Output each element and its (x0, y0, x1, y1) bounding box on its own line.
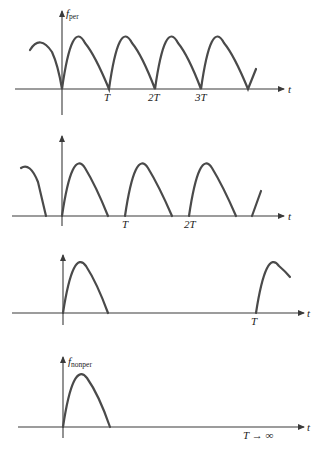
plot-periodic-full-wave: fper t T 2T 3T (15, 7, 292, 115)
x-axis-label: t (288, 210, 292, 222)
y-axis-label: fper (66, 7, 79, 21)
tick-T: T (251, 315, 258, 327)
curve (30, 36, 256, 89)
plot-pulse-train-long-period: t T (12, 255, 311, 327)
tick-3T: 3T (194, 91, 208, 103)
tick-T: T (122, 218, 129, 230)
tick-2T: 2T (148, 91, 161, 103)
plot-nonperiodic-pulse: fnonper t T → ∞ (18, 355, 311, 441)
curve (63, 262, 290, 313)
tick-T-infinity: T → ∞ (243, 429, 273, 441)
curve (63, 374, 110, 427)
tick-T: T (104, 91, 111, 103)
plot-pulse-train-short-period: t T 2T (12, 136, 292, 230)
figure: fper t T 2T 3T t T 2T t T fnonper t T → … (0, 0, 321, 456)
x-axis-label: t (307, 307, 311, 319)
curve (21, 163, 261, 216)
x-axis-label: t (307, 421, 311, 433)
y-axis-label: fnonper (68, 355, 92, 369)
x-axis-label: t (288, 83, 292, 95)
tick-2T: 2T (184, 218, 197, 230)
